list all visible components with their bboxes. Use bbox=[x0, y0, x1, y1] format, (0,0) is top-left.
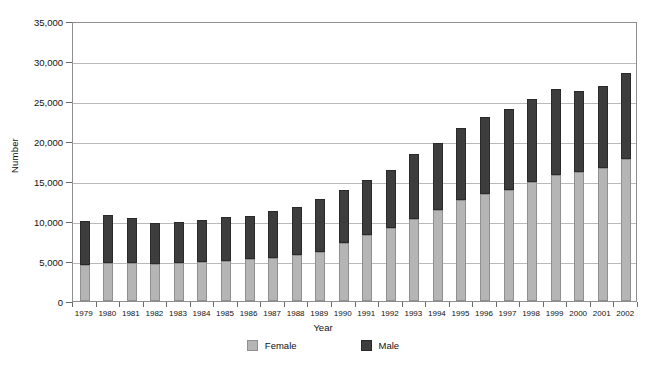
y-axis-tick-label: 30,000 bbox=[3, 57, 63, 68]
x-axis-tick-mark bbox=[143, 302, 144, 307]
bar-segment-female[interactable] bbox=[504, 190, 514, 301]
stacked-bar[interactable] bbox=[103, 215, 113, 301]
bar-segment-male[interactable] bbox=[80, 221, 90, 265]
stacked-bar[interactable] bbox=[551, 89, 561, 301]
stacked-bar[interactable] bbox=[197, 220, 207, 301]
legend-item-female[interactable]: Female bbox=[247, 340, 297, 351]
bar-segment-female[interactable] bbox=[456, 200, 466, 301]
bar-segment-female[interactable] bbox=[103, 263, 113, 301]
stacked-bar[interactable] bbox=[150, 223, 160, 301]
stacked-bar[interactable] bbox=[80, 221, 90, 301]
bar-segment-male[interactable] bbox=[103, 215, 113, 262]
stacked-bar[interactable] bbox=[268, 211, 278, 301]
stacked-bar[interactable] bbox=[409, 154, 419, 301]
bar-segment-male[interactable] bbox=[621, 73, 631, 159]
stacked-bar[interactable] bbox=[221, 217, 231, 301]
bar-segment-male[interactable] bbox=[268, 211, 278, 258]
x-axis-tick-mark bbox=[590, 302, 591, 307]
bar-segment-female[interactable] bbox=[127, 263, 137, 301]
chart-container: Number 05,00010,00015,00020,00025,00030,… bbox=[0, 0, 646, 372]
bar-segment-male[interactable] bbox=[409, 154, 419, 219]
stacked-bar[interactable] bbox=[315, 199, 325, 301]
bar-segment-male[interactable] bbox=[598, 86, 608, 168]
bar-segment-female[interactable] bbox=[315, 252, 325, 301]
bar-segment-female[interactable] bbox=[386, 228, 396, 301]
x-axis-tick-mark bbox=[260, 302, 261, 307]
legend-swatch-male-icon bbox=[361, 340, 372, 351]
bar-segment-female[interactable] bbox=[197, 262, 207, 301]
x-axis-tick-mark bbox=[519, 302, 520, 307]
x-axis-tick-mark bbox=[613, 302, 614, 307]
legend-item-male[interactable]: Male bbox=[361, 340, 400, 351]
y-axis-tick-label: 35,000 bbox=[3, 17, 63, 28]
bar-segment-male[interactable] bbox=[362, 180, 372, 234]
bar-segment-male[interactable] bbox=[480, 117, 490, 194]
stacked-bar[interactable] bbox=[362, 180, 372, 301]
bar-segment-female[interactable] bbox=[598, 168, 608, 301]
stacked-bar[interactable] bbox=[127, 218, 137, 301]
x-axis-tick-mark bbox=[402, 302, 403, 307]
bar-segment-male[interactable] bbox=[386, 170, 396, 228]
x-axis-tick-label: 2002 bbox=[610, 309, 640, 318]
x-axis-tick-mark bbox=[96, 302, 97, 307]
x-axis-tick-mark bbox=[355, 302, 356, 307]
x-axis-tick-mark bbox=[166, 302, 167, 307]
bar-segment-male[interactable] bbox=[174, 222, 184, 263]
stacked-bar[interactable] bbox=[527, 99, 537, 301]
x-axis-tick-mark bbox=[378, 302, 379, 307]
bar-segment-female[interactable] bbox=[221, 261, 231, 301]
bar-segment-female[interactable] bbox=[621, 159, 631, 301]
x-axis-tick-mark bbox=[213, 302, 214, 307]
stacked-bar[interactable] bbox=[386, 170, 396, 301]
bar-segment-female[interactable] bbox=[174, 263, 184, 301]
bar-segment-male[interactable] bbox=[127, 218, 137, 264]
bar-segment-male[interactable] bbox=[221, 217, 231, 261]
bar-segment-female[interactable] bbox=[551, 175, 561, 301]
bar-segment-female[interactable] bbox=[527, 182, 537, 301]
bar-segment-male[interactable] bbox=[197, 220, 207, 262]
bar-segment-female[interactable] bbox=[362, 235, 372, 301]
bar-segment-female[interactable] bbox=[433, 210, 443, 301]
bar-segment-female[interactable] bbox=[80, 265, 90, 301]
x-axis-tick-mark bbox=[472, 302, 473, 307]
bar-segment-female[interactable] bbox=[409, 219, 419, 301]
bar-segment-male[interactable] bbox=[574, 91, 584, 173]
bar-segment-female[interactable] bbox=[339, 243, 349, 301]
bar-segment-male[interactable] bbox=[292, 207, 302, 255]
bar-segment-female[interactable] bbox=[245, 259, 255, 301]
bar-series-group bbox=[73, 23, 636, 301]
x-axis-tick-mark bbox=[496, 302, 497, 307]
stacked-bar[interactable] bbox=[174, 222, 184, 301]
bar-segment-male[interactable] bbox=[339, 190, 349, 244]
bar-segment-male[interactable] bbox=[315, 199, 325, 252]
bar-segment-female[interactable] bbox=[292, 255, 302, 301]
stacked-bar[interactable] bbox=[456, 128, 466, 301]
bar-segment-male[interactable] bbox=[433, 143, 443, 210]
bar-segment-female[interactable] bbox=[150, 264, 160, 301]
stacked-bar[interactable] bbox=[433, 143, 443, 301]
y-axis-tick-label: 0 bbox=[3, 297, 63, 308]
bar-segment-male[interactable] bbox=[504, 109, 514, 190]
x-axis-tick-mark bbox=[190, 302, 191, 307]
bar-segment-male[interactable] bbox=[150, 223, 160, 264]
stacked-bar[interactable] bbox=[598, 86, 608, 301]
stacked-bar[interactable] bbox=[504, 109, 514, 301]
bar-segment-female[interactable] bbox=[480, 194, 490, 301]
bar-segment-male[interactable] bbox=[245, 216, 255, 259]
bar-segment-male[interactable] bbox=[527, 99, 537, 182]
y-axis-tick-label: 15,000 bbox=[3, 177, 63, 188]
stacked-bar[interactable] bbox=[480, 117, 490, 301]
legend-swatch-female-icon bbox=[247, 340, 258, 351]
bar-segment-male[interactable] bbox=[456, 128, 466, 200]
bar-segment-female[interactable] bbox=[268, 258, 278, 301]
stacked-bar[interactable] bbox=[621, 73, 631, 301]
x-axis-tick-mark bbox=[119, 302, 120, 307]
stacked-bar[interactable] bbox=[574, 91, 584, 301]
bar-segment-male[interactable] bbox=[551, 89, 561, 175]
x-axis-tick-mark bbox=[284, 302, 285, 307]
stacked-bar[interactable] bbox=[292, 207, 302, 301]
bar-segment-female[interactable] bbox=[574, 172, 584, 301]
stacked-bar[interactable] bbox=[245, 216, 255, 301]
x-axis-tick-mark bbox=[637, 302, 638, 307]
stacked-bar[interactable] bbox=[339, 190, 349, 301]
